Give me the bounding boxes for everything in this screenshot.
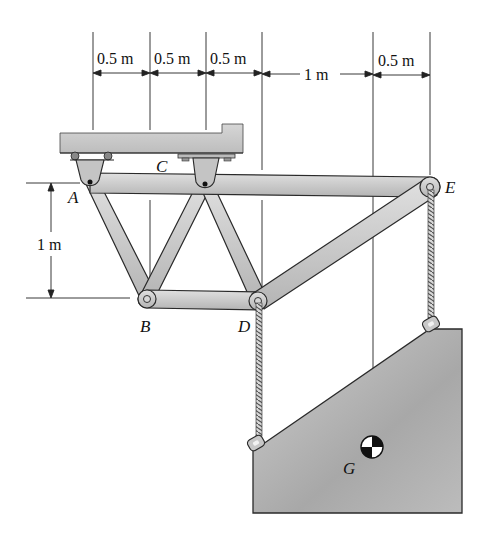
member-ab bbox=[85, 178, 156, 302]
dim-label-3: 0.5 m bbox=[210, 50, 247, 67]
pin-a bbox=[88, 180, 93, 185]
truss-diagram: 0.5 m 0.5 m 0.5 m 1 m 0.5 m 1 m bbox=[0, 0, 479, 540]
pin-e bbox=[427, 184, 434, 191]
rope-d bbox=[256, 303, 262, 436]
pin-b bbox=[144, 296, 151, 303]
top-dimension-arrows bbox=[93, 70, 430, 78]
label-a: A bbox=[67, 188, 79, 207]
dim-label-4: 1 m bbox=[304, 66, 329, 83]
label-b: B bbox=[140, 317, 151, 336]
ceiling-support bbox=[60, 124, 243, 161]
member-ae bbox=[90, 173, 440, 197]
dim-label-1: 0.5 m bbox=[97, 50, 134, 67]
label-c: C bbox=[156, 157, 168, 176]
label-g: G bbox=[343, 459, 355, 478]
label-e: E bbox=[444, 178, 456, 197]
pin-c bbox=[203, 182, 208, 187]
member-de bbox=[252, 179, 437, 309]
truss-members bbox=[85, 173, 440, 310]
label-d: D bbox=[237, 317, 251, 336]
hanging-block bbox=[246, 315, 462, 513]
dim-label-2: 0.5 m bbox=[154, 50, 191, 67]
member-bd bbox=[138, 290, 267, 310]
dim-label-5: 0.5 m bbox=[378, 52, 415, 69]
member-cd bbox=[199, 180, 266, 303]
center-of-gravity-icon bbox=[361, 436, 383, 458]
member-bc bbox=[140, 180, 212, 300]
rope-e bbox=[428, 190, 434, 318]
dim-label-vertical: 1 m bbox=[37, 236, 62, 253]
